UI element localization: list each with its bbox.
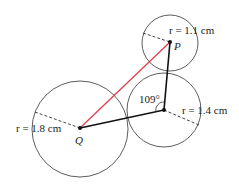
point-label-p: P [173,40,181,52]
radius-label-large: r = 1.8 cm [16,122,62,134]
pq-line [80,42,170,128]
radius-top [143,33,170,42]
q-to-center-line [80,110,164,128]
angle-label: 109° [139,93,160,105]
radius-label-middle: r = 1.4 cm [182,104,228,116]
point-p [168,40,172,44]
circles-diagram: r = 1.1 cm P r = 1.4 cm 109° r = 1.8 cm … [0,0,239,186]
point-label-q: Q [75,134,83,146]
center-to-p-line [164,42,170,110]
point-center [162,108,166,112]
point-q [78,126,82,130]
radius-label-top: r = 1.1 cm [169,24,215,36]
